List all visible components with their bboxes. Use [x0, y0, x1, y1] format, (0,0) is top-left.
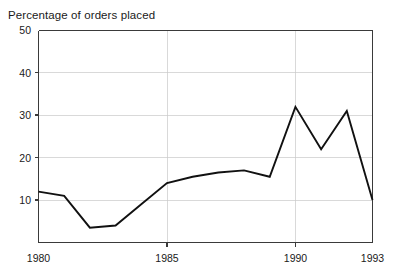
y-label-40: 40 [19, 67, 31, 79]
y-label-10: 10 [19, 194, 31, 206]
x-label-1985: 1985 [155, 252, 179, 264]
horizontal-gridlines [39, 73, 373, 201]
axis-frame [39, 31, 373, 243]
x-label-1993: 1993 [361, 252, 385, 264]
line-chart-plot: 50 40 30 20 10 1980 1985 1990 1993 [0, 0, 396, 279]
y-label-30: 30 [19, 109, 31, 121]
data-series-line [39, 107, 373, 228]
y-label-20: 20 [19, 152, 31, 164]
y-tick-marks [35, 73, 39, 201]
x-axis-labels: 1980 1985 1990 1993 [27, 252, 385, 264]
y-axis-labels: 50 40 30 20 10 [19, 24, 31, 206]
x-tick-marks [167, 243, 296, 248]
x-label-1980: 1980 [27, 252, 51, 264]
vertical-gridlines [167, 31, 296, 243]
x-label-1990: 1990 [284, 252, 308, 264]
plot-frame [39, 31, 373, 243]
chart-container: Percentage of orders placed [0, 0, 396, 279]
y-label-50: 50 [19, 24, 31, 36]
